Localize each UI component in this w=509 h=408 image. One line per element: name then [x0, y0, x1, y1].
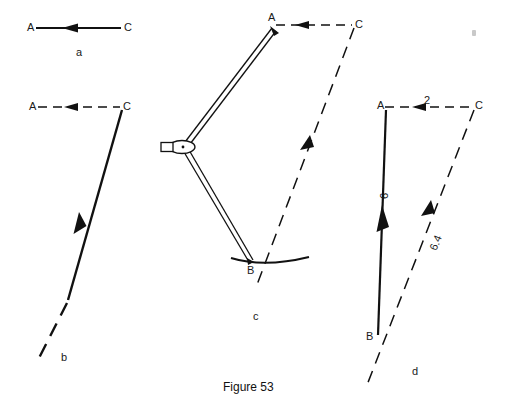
- panel-b-point-c: C: [123, 101, 131, 112]
- panel-a-arrowhead-toward-a: [62, 24, 78, 33]
- panel-d-label: d: [412, 366, 418, 377]
- panel-c-linework: [161, 21, 354, 290]
- panel-c-arrowhead-resultant: [300, 135, 314, 150]
- panel-d-linework: [367, 103, 474, 385]
- panel-c-arc-at-b: [231, 257, 309, 263]
- panel-c-arrowhead-ac: [295, 21, 309, 29]
- figure-caption: Figure 53: [223, 381, 274, 393]
- panel-c-compass-leg-upper-outer: [182, 28, 272, 146]
- panel-c-compass-pivot-dot: [182, 146, 185, 149]
- panel-a-linework: [36, 24, 121, 33]
- panel-c-compass-upper-tip: [270, 26, 279, 36]
- figure-53: A C a A C b A C B c A C B 2 6 6.4 d Figu…: [0, 0, 509, 408]
- panel-c-point-c: C: [355, 19, 363, 30]
- panel-c-compass-leg-lower-inner: [189, 150, 253, 260]
- panel-b-arrowhead-toward-a: [64, 103, 78, 111]
- panel-d-dashed-resultant: [367, 110, 474, 385]
- panel-d-magnitude-vertical: 6: [379, 193, 390, 199]
- panel-d-arrowhead-ab: [377, 205, 390, 232]
- panel-d-point-c: C: [475, 100, 483, 111]
- panel-c-compass-leg-upper-inner: [187, 31, 276, 148]
- panel-b-point-a: A: [29, 101, 37, 112]
- panel-c-point-a: A: [268, 12, 276, 23]
- panel-c-point-b: B: [247, 265, 255, 276]
- panel-c-dashed-resultant: [255, 28, 354, 290]
- panel-b-solid-leg: [68, 110, 122, 300]
- panel-b-arrowhead-down: [74, 212, 87, 234]
- panel-d-point-a: A: [377, 100, 385, 111]
- panel-d-magnitude-horizontal: 2: [424, 95, 430, 106]
- figure-linework: [0, 0, 509, 408]
- panel-b-label: b: [61, 352, 67, 363]
- panel-a-point-c: C: [124, 22, 132, 33]
- panel-c-compass-leg-lower-outer: [184, 152, 249, 262]
- panel-c-compass-handle: [161, 143, 173, 152]
- panel-b-linework: [38, 103, 122, 360]
- panel-a-point-a: A: [27, 22, 35, 33]
- panel-a-label: a: [76, 47, 82, 58]
- panel-c-label: c: [253, 311, 259, 322]
- scan-artifact-speck: [472, 30, 476, 36]
- panel-d-point-b: B: [366, 331, 374, 342]
